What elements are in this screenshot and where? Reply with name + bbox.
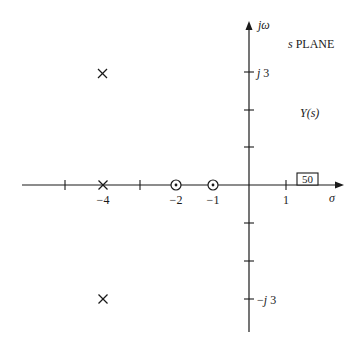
zero-minus1: [208, 180, 218, 190]
real-axis: [22, 180, 344, 190]
label-re-minus2: −2: [170, 193, 183, 207]
zero-minus2: [171, 180, 181, 190]
label-im-plus3: j 3: [255, 66, 269, 80]
plane-label: s PLANE: [288, 37, 334, 51]
imag-axis-arrow-icon: [246, 21, 253, 30]
sigma-label: σ: [329, 191, 336, 205]
gain-box: 50: [297, 173, 318, 185]
pole-upper: [98, 69, 107, 78]
jomega-label: jω: [256, 18, 270, 32]
pole-lower: [99, 295, 108, 304]
label-re-minus1: −1: [207, 193, 220, 207]
real-axis-arrow-icon: [335, 182, 344, 189]
gain-value: 50: [302, 173, 314, 185]
s-plane-diagram: 50 −4 −2 −1 1 σ jω j 3 −j 3 s PLANE Y(s): [0, 0, 354, 346]
function-label: Y(s): [300, 106, 319, 120]
label-re-minus4: −4: [97, 193, 110, 207]
label-re-plus1: 1: [283, 193, 289, 207]
label-im-minus3: −j 3: [257, 293, 276, 307]
imag-axis: [244, 21, 254, 332]
